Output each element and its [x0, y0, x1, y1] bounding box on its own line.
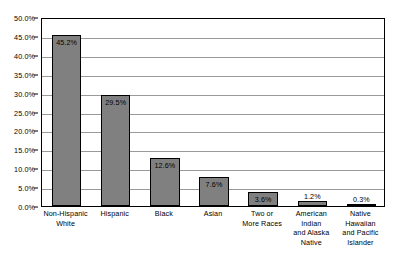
bar-value-label: 45.2% — [53, 38, 80, 47]
x-category-label: AmericanIndianand AlaskaNative — [287, 209, 336, 247]
x-category-label: Black — [139, 209, 188, 219]
y-tick-label: 50.0% — [14, 14, 35, 23]
y-tick-mark — [34, 188, 38, 189]
bar-value-label: 29.5% — [102, 98, 129, 107]
y-tick-mark — [34, 207, 38, 208]
y-tick-mark — [34, 112, 38, 113]
bar[interactable]: 3.6% — [248, 192, 277, 206]
x-category-label: NativeHawaiianand PacificIslander — [336, 209, 385, 247]
bar-slot: 29.5% — [91, 19, 140, 206]
x-category-label-line: Asian — [188, 209, 237, 219]
bar[interactable]: 0.3% — [347, 204, 376, 206]
y-tick-mark — [34, 131, 38, 132]
y-tick-label: 40.0% — [14, 51, 35, 60]
x-category-label-line: Two or — [238, 209, 287, 219]
bar-value-label: 12.6% — [151, 161, 178, 170]
bar-slot: 45.2% — [42, 19, 91, 206]
x-category-label-line: and Alaska — [287, 228, 336, 238]
bar[interactable]: 29.5% — [101, 95, 130, 207]
bar[interactable]: 7.6% — [199, 177, 228, 206]
y-tick-label: 20.0% — [14, 127, 35, 136]
y-tick-mark — [34, 150, 38, 151]
x-category-label: Asian — [188, 209, 237, 219]
y-tick-label: 30.0% — [14, 89, 35, 98]
x-axis: Non-HispanicWhiteHispanicBlackAsianTwo o… — [41, 209, 385, 261]
x-category-label-line: Non-Hispanic — [41, 209, 90, 219]
y-tick-label: 10.0% — [14, 165, 35, 174]
bar[interactable]: 12.6% — [150, 158, 179, 206]
bar-chart: 0.0%5.0%10.0%15.0%20.0%25.0%30.0%35.0%40… — [0, 0, 399, 263]
y-tick-label: 0.0% — [18, 203, 35, 212]
x-category-label: Hispanic — [90, 209, 139, 219]
plot-area: 45.2%29.5%12.6%7.6%3.6%1.2%0.3% — [41, 18, 385, 207]
x-category-label-line: Indian — [287, 219, 336, 229]
y-tick-mark — [34, 36, 38, 37]
x-category-label-line: Islander — [336, 238, 385, 248]
bar-slot: 0.3% — [337, 19, 386, 206]
y-tick-mark — [34, 55, 38, 56]
x-category-label-line: Native — [287, 238, 336, 248]
y-tick-mark — [34, 169, 38, 170]
y-tick-label: 25.0% — [14, 108, 35, 117]
x-category-label-line: Native — [336, 209, 385, 219]
x-category-label-line: American — [287, 209, 336, 219]
y-tick-label: 15.0% — [14, 146, 35, 155]
x-category-label-line: Hawaiian — [336, 219, 385, 229]
bar-slot: 1.2% — [288, 19, 337, 206]
x-category-label: Non-HispanicWhite — [41, 209, 90, 228]
bar-value-label: 0.3% — [348, 195, 375, 204]
y-axis: 0.0%5.0%10.0%15.0%20.0%25.0%30.0%35.0%40… — [0, 18, 38, 207]
y-tick-label: 45.0% — [14, 32, 35, 41]
x-category-label-line: Black — [139, 209, 188, 219]
y-tick-label: 5.0% — [18, 184, 35, 193]
bar[interactable]: 45.2% — [52, 35, 81, 206]
bar-value-label: 1.2% — [299, 192, 326, 201]
y-tick-mark — [34, 18, 38, 19]
x-category-label-line: Hispanic — [90, 209, 139, 219]
bar-slot: 3.6% — [239, 19, 288, 206]
bar-slot: 12.6% — [140, 19, 189, 206]
bar-value-label: 7.6% — [200, 180, 227, 189]
y-tick-mark — [34, 74, 38, 75]
x-category-label-line: White — [41, 219, 90, 229]
bar[interactable]: 1.2% — [298, 201, 327, 206]
y-tick-label: 35.0% — [14, 70, 35, 79]
x-category-label: Two orMore Races — [238, 209, 287, 228]
bar-value-label: 3.6% — [249, 195, 276, 204]
bar-slot: 7.6% — [189, 19, 238, 206]
y-tick-mark — [34, 93, 38, 94]
x-category-label-line: and Pacific — [336, 228, 385, 238]
x-category-label-line: More Races — [238, 219, 287, 229]
